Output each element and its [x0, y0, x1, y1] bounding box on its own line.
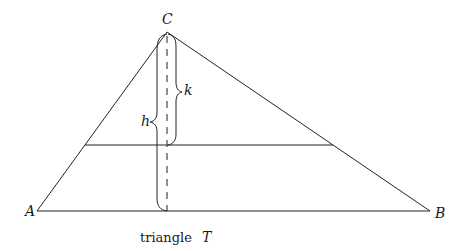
- side-bc: [167, 32, 430, 211]
- triangle-diagram: C A B h k triangle T: [0, 0, 463, 251]
- brace-label-h: h: [141, 113, 150, 129]
- vertex-label-b: B: [434, 205, 445, 221]
- caption-prefix: triangle: [140, 230, 192, 245]
- brace-k: [168, 34, 182, 145]
- brace-h: [150, 34, 167, 211]
- vertex-label-a: A: [23, 203, 35, 219]
- caption-text: triangle T: [140, 229, 213, 245]
- caption-var: T: [202, 229, 213, 245]
- vertex-label-c: C: [162, 11, 173, 27]
- brace-label-k: k: [184, 82, 192, 98]
